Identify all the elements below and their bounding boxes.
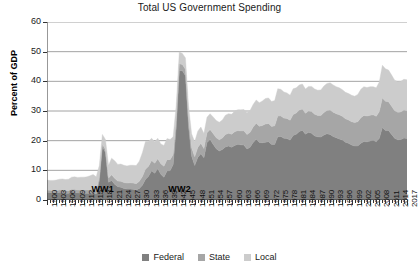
x-tick-mark [327,200,328,203]
y-tick-label: 30 [17,105,41,115]
x-tick-mark [373,200,374,203]
x-tick-label: 1936 [161,190,170,207]
x-tick-label: 1912 [87,190,96,207]
x-tick-mark [382,200,383,203]
x-tick-mark [293,200,294,203]
x-tick-mark [376,200,377,203]
x-tick-label: 1978 [290,190,299,207]
x-tick-label: 1945 [188,190,197,207]
x-tick-label: 1987 [318,190,327,207]
x-tick-mark [318,200,319,203]
x-tick-mark [241,200,242,205]
x-tick-mark [281,200,282,203]
x-tick-mark [339,200,340,203]
y-tick-label: 20 [17,135,41,145]
x-tick-mark [275,200,276,203]
x-tick-mark [195,200,196,205]
x-tick-mark [229,200,230,203]
x-tick-mark [59,200,60,203]
x-tick-label: 1975 [281,190,290,207]
x-tick-mark [201,200,202,203]
x-tick-mark [349,200,350,203]
x-tick-mark [84,200,85,205]
x-tick-mark [401,200,402,203]
x-tick-label: 1930 [142,190,151,207]
x-tick-label: 1924 [124,190,133,207]
x-tick-mark [287,200,288,205]
x-tick-mark [333,200,334,205]
x-tick-mark [182,200,183,203]
x-tick-mark [395,200,396,203]
x-tick-mark [139,200,140,205]
chart-container: Total US Government Spending Percent of … [0,0,419,275]
x-tick-mark [290,200,291,203]
x-tick-label: 1957 [225,190,234,207]
x-tick-mark [69,200,70,203]
x-tick-label: 1972 [272,190,281,207]
x-tick-mark [87,200,88,203]
legend-swatch-icon [244,254,251,261]
x-tick-mark [364,200,365,203]
x-tick-label: 1903 [59,190,68,207]
x-tick-mark [96,200,97,203]
x-tick-mark [367,200,368,203]
x-tick-mark [404,200,405,203]
x-tick-mark [161,200,162,203]
stacked-area-svg [47,22,407,200]
x-tick-label: 2005 [373,190,382,207]
y-tick-label: 0 [17,194,41,204]
legend-item-local[interactable]: Local [244,252,277,262]
x-tick-mark [256,200,257,203]
x-tick-mark [259,200,260,205]
x-tick-mark [93,200,94,205]
x-tick-mark [53,200,54,203]
x-tick-label: 1981 [299,190,308,207]
x-tick-label: 1993 [336,190,345,207]
x-tick-label: 1999 [355,190,364,207]
x-tick-mark [62,200,63,203]
legend-item-federal[interactable]: Federal [142,252,184,262]
x-tick-mark [232,200,233,205]
x-tick-label: 1963 [244,190,253,207]
x-tick-mark [65,200,66,205]
x-tick-mark [324,200,325,205]
x-tick-mark [78,200,79,203]
x-tick-mark [336,200,337,203]
y-tick-label: 60 [17,16,41,26]
x-tick-mark [75,200,76,205]
x-tick-mark [109,200,110,203]
x-tick-mark [102,200,103,205]
x-tick-mark [72,200,73,203]
x-tick-mark [155,200,156,203]
x-tick-mark [330,200,331,203]
legend-item-state[interactable]: State [198,252,230,262]
x-tick-mark [145,200,146,203]
x-tick-mark [238,200,239,203]
x-tick-mark [170,200,171,203]
x-tick-mark [164,200,165,203]
x-tick-mark [99,200,100,203]
x-tick-mark [296,200,297,205]
x-tick-label: 1900 [50,190,59,207]
x-tick-mark [210,200,211,203]
x-tick-mark [305,200,306,205]
x-tick-label: 1921 [115,190,124,207]
x-tick-mark [299,200,300,203]
x-tick-mark [216,200,217,203]
x-tick-label: 1906 [68,190,77,207]
x-tick-mark [315,200,316,205]
x-tick-mark [342,200,343,205]
x-tick-mark [345,200,346,203]
x-tick-mark [56,200,57,205]
x-tick-mark [213,200,214,205]
x-tick-mark [235,200,236,203]
x-tick-mark [352,200,353,205]
x-tick-label: 1969 [262,190,271,207]
x-tick-mark [112,200,113,205]
x-tick-label: 1948 [198,190,207,207]
x-tick-mark [118,200,119,203]
x-tick-mark [398,200,399,205]
x-tick-label: 1954 [216,190,225,207]
chart-legend: FederalStateLocal [0,252,419,262]
x-tick-mark [142,200,143,203]
